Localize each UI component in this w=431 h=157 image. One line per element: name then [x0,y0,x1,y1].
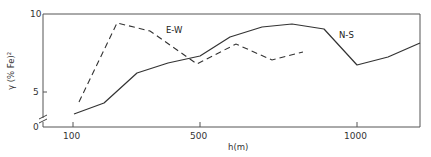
plot-frame [43,14,420,127]
series-ns-line [74,24,420,114]
x-tick-label-1000: 1000 [344,131,367,141]
series-label-ew: E-W [166,25,183,35]
x-ticks [73,122,357,127]
y-tick-label-0: 0 [33,122,39,132]
x-tick-label-500: 500 [190,131,207,141]
y-tick-label-5: 5 [33,87,39,97]
x-tick-label-100: 100 [63,131,80,141]
chart-canvas: 10 5 0 100 500 1000 h(m) γ (% Fe)² E-W N… [0,0,431,157]
y-axis-title: γ (% Fe)² [6,52,16,90]
y-tick-label-10: 10 [30,9,42,19]
x-axis-title: h(m) [228,142,248,152]
series-ew-line [79,23,303,102]
series-label-ns: N-S [339,30,354,40]
